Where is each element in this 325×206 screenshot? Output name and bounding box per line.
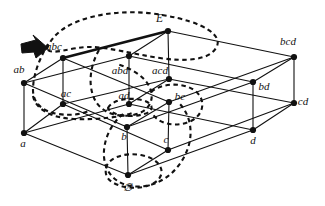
hasse-diagram: Eabcabdacdbcdabacadbcbdcdabcd∅ bbox=[0, 0, 325, 206]
node-label-ad: ad bbox=[119, 89, 131, 101]
lattice-node-E[interactable] bbox=[165, 28, 171, 34]
node-label-abc: abc bbox=[46, 40, 62, 52]
lattice-node-ac[interactable] bbox=[60, 101, 66, 107]
lattice-node-empty[interactable] bbox=[125, 172, 131, 178]
lattice-node-bc[interactable] bbox=[166, 99, 172, 105]
lattice-node-a[interactable] bbox=[21, 130, 27, 136]
lattice-node-abc[interactable] bbox=[60, 55, 66, 61]
lattice-node-d[interactable] bbox=[250, 127, 256, 133]
node-label-bcd: bcd bbox=[280, 35, 296, 47]
lattice-node-cd[interactable] bbox=[291, 100, 297, 106]
node-label-bc: bc bbox=[175, 90, 186, 102]
node-label-empty: ∅ bbox=[123, 181, 133, 193]
node-label-acd: acd bbox=[152, 64, 168, 76]
lattice-node-bcd[interactable] bbox=[291, 54, 297, 60]
lattice-node-bd[interactable] bbox=[250, 79, 256, 85]
node-label-abd: abd bbox=[112, 64, 129, 76]
node-label-d: d bbox=[250, 134, 256, 146]
node-label-b: b bbox=[121, 130, 127, 142]
diagram-background bbox=[0, 0, 325, 206]
node-label-E: E bbox=[155, 12, 163, 24]
lattice-node-acd[interactable] bbox=[166, 76, 172, 82]
lattice-node-ad[interactable] bbox=[126, 101, 132, 107]
node-label-c: c bbox=[164, 133, 169, 145]
node-label-bd: bd bbox=[259, 80, 271, 92]
lattice-node-ab[interactable] bbox=[21, 80, 27, 86]
lattice-node-c[interactable] bbox=[165, 147, 171, 153]
node-label-cd: cd bbox=[298, 95, 309, 107]
node-label-ab: ab bbox=[14, 63, 26, 75]
node-label-a: a bbox=[20, 137, 26, 149]
lattice-node-abd[interactable] bbox=[126, 53, 132, 59]
diagram-canvas: Eabcabdacdbcdabacadbcbdcdabcd∅ bbox=[0, 0, 325, 206]
node-label-ac: ac bbox=[61, 87, 72, 99]
